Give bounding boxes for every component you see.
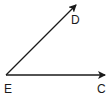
label-D: D (71, 13, 80, 27)
ray-ED (6, 5, 76, 75)
angle-diagram: D E C (0, 0, 112, 97)
label-E: E (4, 82, 12, 96)
label-C: C (97, 82, 106, 96)
